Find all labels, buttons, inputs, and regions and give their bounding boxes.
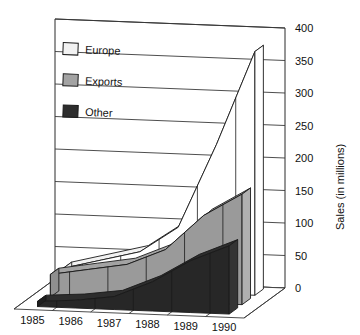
y-tick-label: 50: [295, 250, 307, 262]
legend-swatch: [63, 74, 78, 87]
ribbon-right-cap: [255, 45, 263, 295]
legend-label: Europe: [85, 43, 121, 56]
ribbon-right-cap: [229, 240, 237, 314]
legend-item: Europe: [63, 43, 121, 57]
x-tick-label: 1990: [212, 321, 236, 333]
y-tick-label: 150: [295, 185, 313, 197]
y-tick-label: 400: [295, 22, 313, 34]
y-tick-label: 0: [295, 282, 301, 294]
x-tick-label: 1986: [59, 315, 83, 327]
y-axis-title: Sales (in millions): [334, 144, 346, 230]
x-tick-label: 1985: [20, 314, 44, 326]
x-tick-label: 1987: [97, 317, 121, 329]
legend-label: Other: [85, 106, 113, 119]
y-tick-label: 250: [295, 120, 313, 132]
legend-label: Exports: [85, 75, 123, 88]
legend-swatch: [63, 43, 78, 56]
y-tick-label: 300: [295, 87, 313, 99]
y-tick-label: 200: [295, 152, 313, 164]
ribbon-chart: 050100150200250300350400 198519861987198…: [0, 0, 360, 335]
y-tick-label: 100: [295, 217, 313, 229]
legend-item: Exports: [63, 74, 123, 88]
legend-item: Other: [63, 105, 113, 119]
chart-container: 050100150200250300350400 198519861987198…: [0, 0, 360, 335]
y-tick-label: 350: [295, 55, 313, 67]
ribbon-right-cap: [242, 188, 250, 305]
legend-swatch: [63, 105, 78, 118]
x-tick-label: 1989: [174, 320, 198, 332]
x-tick-label: 1988: [135, 318, 159, 330]
